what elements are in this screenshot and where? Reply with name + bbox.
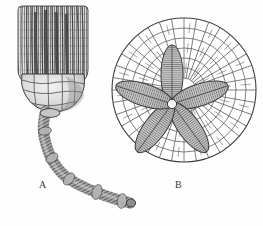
stem-attachment-knob xyxy=(40,109,60,118)
central-mouth xyxy=(167,99,176,108)
figure-label-a: A xyxy=(39,180,46,190)
figure-b-oral-disk xyxy=(112,18,256,162)
plate-artwork xyxy=(0,0,263,226)
calyx-cup xyxy=(22,74,86,113)
figure-label-b: B xyxy=(175,180,182,190)
stem-terminal-tip xyxy=(126,199,135,207)
arm-crown xyxy=(17,6,88,84)
illustration-plate: A B xyxy=(0,0,263,226)
